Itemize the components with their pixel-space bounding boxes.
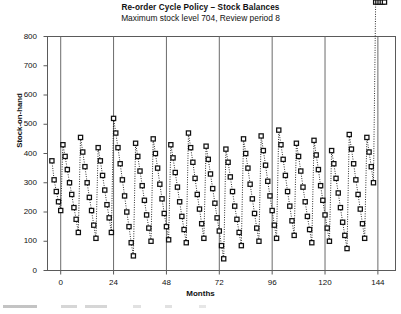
data-point-marker <box>281 157 285 161</box>
data-point-marker <box>237 230 241 234</box>
series-connector <box>133 143 135 256</box>
data-point-marker <box>365 135 369 139</box>
data-point-marker <box>323 213 327 217</box>
data-point-marker <box>56 200 60 204</box>
data-point-marker <box>173 170 177 174</box>
data-point-marker <box>332 162 336 166</box>
data-point-marker <box>334 176 338 180</box>
data-point-marker <box>259 134 263 138</box>
data-point-marker <box>122 194 126 198</box>
data-point-marker <box>164 225 168 229</box>
data-point-marker <box>206 157 210 161</box>
data-point-marker <box>83 165 87 169</box>
data-point-marker <box>100 173 104 177</box>
data-point-marker <box>107 216 111 220</box>
data-point-marker <box>153 151 157 155</box>
caption-fragment <box>3 305 243 308</box>
data-point-marker <box>125 210 129 214</box>
data-point-marker <box>92 223 96 227</box>
data-point-marker <box>222 257 226 261</box>
data-point-marker <box>277 128 281 132</box>
plot-area <box>0 0 401 314</box>
data-point-marker <box>213 201 217 205</box>
data-point-marker <box>356 192 360 196</box>
data-point-marker <box>184 241 188 245</box>
data-point-marker <box>147 226 151 230</box>
data-point-marker <box>98 159 102 163</box>
data-point-marker <box>72 206 76 210</box>
data-point-marker <box>103 188 107 192</box>
data-point-marker <box>235 217 239 221</box>
data-point-marker <box>175 185 179 189</box>
data-point-marker <box>371 181 375 185</box>
data-point-marker <box>158 182 162 186</box>
data-point-marker <box>59 208 63 212</box>
data-point-marker <box>81 150 85 154</box>
data-point-marker <box>76 230 80 234</box>
data-point-marker <box>230 189 234 193</box>
data-point-marker <box>261 148 265 152</box>
data-point-marker <box>263 163 267 167</box>
data-point-marker <box>327 239 331 243</box>
data-point-marker <box>138 169 142 173</box>
data-point-marker <box>167 238 171 242</box>
data-point-marker <box>50 159 54 163</box>
data-point-marker <box>257 239 261 243</box>
data-point-marker <box>252 211 256 215</box>
data-point-marker <box>140 184 144 188</box>
data-point-marker <box>341 220 345 224</box>
data-point-marker <box>217 229 221 233</box>
data-point-marker <box>204 144 208 148</box>
data-point-marker <box>151 137 155 141</box>
data-point-marker <box>94 236 98 240</box>
data-point-marker <box>250 197 254 201</box>
data-point-marker <box>129 241 133 245</box>
data-point-marker <box>178 200 182 204</box>
data-point-marker <box>303 200 307 204</box>
data-point-marker <box>74 217 78 221</box>
chart-figure: Re-order Cycle Policy – Stock Balances M… <box>0 0 401 314</box>
data-point-marker <box>367 150 371 154</box>
data-point-marker <box>142 198 146 202</box>
data-point-marker <box>321 198 325 202</box>
data-point-marker <box>360 222 364 226</box>
data-point-marker <box>105 203 109 207</box>
data-point-marker <box>215 216 219 220</box>
data-point-marker <box>89 208 93 212</box>
data-point-marker <box>310 241 314 245</box>
data-point-marker <box>369 165 373 169</box>
data-point-marker <box>266 179 270 183</box>
data-point-marker <box>202 236 206 240</box>
data-point-marker <box>208 172 212 176</box>
data-point-marker <box>352 162 356 166</box>
data-point-marker <box>288 204 292 208</box>
data-point-marker <box>345 246 349 250</box>
data-point-marker <box>61 143 65 147</box>
data-point-marker <box>67 181 71 185</box>
data-point-marker <box>272 223 276 227</box>
data-point-marker <box>274 236 278 240</box>
data-point-marker <box>186 131 190 135</box>
data-point-marker <box>114 131 118 135</box>
data-point-marker <box>219 244 223 248</box>
data-point-marker <box>116 146 120 150</box>
data-point-marker <box>52 178 56 182</box>
data-point-marker <box>120 178 124 182</box>
data-point-marker <box>127 225 131 229</box>
data-point-marker <box>156 166 160 170</box>
data-point-marker <box>294 141 298 145</box>
data-point-marker <box>246 166 250 170</box>
data-point-marker <box>319 184 323 188</box>
data-point-marker <box>169 143 173 147</box>
data-point-marker <box>160 197 164 201</box>
data-point-marker <box>312 138 316 142</box>
data-point-marker <box>358 207 362 211</box>
data-point-marker <box>290 219 294 223</box>
data-point-marker <box>78 135 82 139</box>
data-point-marker <box>63 154 67 158</box>
data-point-marker <box>244 151 248 155</box>
data-point-marker <box>382 0 386 4</box>
data-point-marker <box>87 195 91 199</box>
data-point-marker <box>296 154 300 158</box>
data-point-marker <box>111 116 115 120</box>
